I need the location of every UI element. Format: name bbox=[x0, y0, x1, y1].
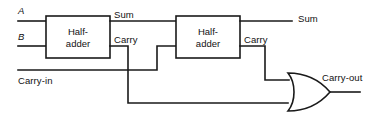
wire-ha2-carry bbox=[240, 46, 289, 80]
input-a-label: A bbox=[18, 5, 24, 16]
input-b-label: B bbox=[18, 31, 24, 42]
half-adder-2-line1: Half- bbox=[176, 26, 240, 38]
half-adder-1-line1: Half- bbox=[46, 26, 110, 38]
full-adder-diagram: A B Carry-in Half- adder Half- adder Sum… bbox=[0, 0, 385, 125]
input-carry-in-label: Carry-in bbox=[18, 75, 53, 86]
half-adder-1-carry-label: Carry bbox=[114, 34, 138, 45]
half-adder-1-line2: adder bbox=[46, 38, 110, 50]
half-adder-2-carry-label: Carry bbox=[244, 34, 268, 45]
circuit-canvas bbox=[0, 0, 385, 125]
half-adder-2-line2: adder bbox=[176, 38, 240, 50]
output-sum-label: Sum bbox=[298, 13, 318, 24]
output-carry-out-label: Carry-out bbox=[322, 72, 363, 83]
half-adder-1-sum-label: Sum bbox=[114, 9, 134, 20]
